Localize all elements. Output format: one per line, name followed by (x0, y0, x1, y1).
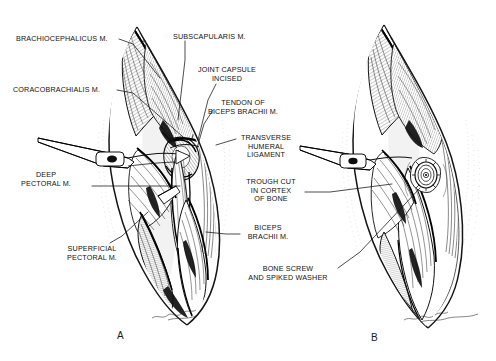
illustration-artwork (0, 0, 496, 361)
panel-id-b: B (371, 332, 378, 343)
anatomical-figure: BRACHIOCEPHALICUS M.CORACOBRACHIALIS M.D… (0, 0, 496, 361)
panel-id-a: A (117, 330, 124, 341)
